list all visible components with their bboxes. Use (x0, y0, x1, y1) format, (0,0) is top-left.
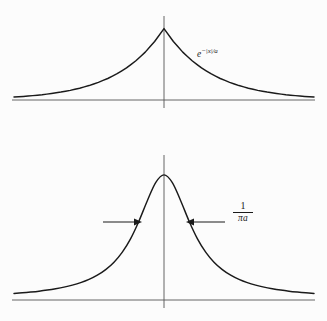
figure-container: e−|x|/a 1 πa (0, 0, 327, 321)
exponential-function-label: e−|x|/a (197, 48, 218, 60)
linewidth-denominator: πa (228, 213, 258, 224)
linewidth-label: 1 πa (228, 201, 258, 224)
bottom-panel (12, 155, 315, 308)
linewidth-numerator: 1 (228, 201, 258, 212)
top-panel (12, 16, 315, 108)
width-arrow-left (103, 219, 142, 226)
exponential-exponent: −|x|/a (201, 47, 218, 55)
figure-canvas (0, 0, 327, 321)
width-arrow-right (186, 219, 225, 226)
